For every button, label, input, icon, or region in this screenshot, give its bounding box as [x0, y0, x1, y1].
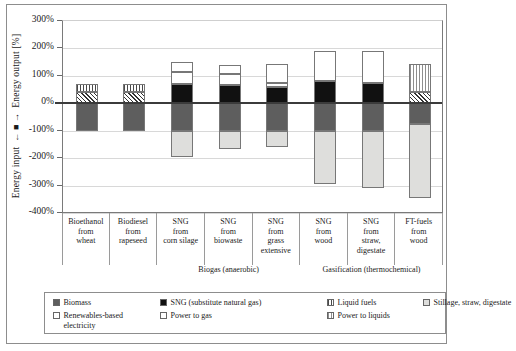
bar-segment-ptg	[266, 64, 288, 83]
y-tick-label: 200%	[8, 42, 54, 52]
bar-segment-stillage	[266, 131, 288, 147]
bar-segment-ptg	[219, 65, 241, 75]
category-label-line: from	[300, 227, 347, 237]
bar-segment-sng	[219, 85, 241, 103]
group-label-2: Gasification (thermochemical)	[300, 265, 443, 274]
bar-segment-renew	[362, 51, 384, 83]
category-axis-table: BioethanolfromwheatBiodieselfromrapeseed…	[62, 212, 443, 274]
bar-segment-sng	[314, 81, 336, 103]
bar-segment-biomass	[171, 103, 193, 130]
bar-segment-renew	[171, 72, 193, 84]
bar-segment-liquid	[123, 84, 145, 92]
y-axis-title: Energy input ← ■ → Energy output [%]	[11, 34, 21, 199]
bar-segment-biomass	[123, 103, 145, 130]
category-label-line: Biodiesel	[110, 217, 157, 227]
legend-label-liquid: Liquid fuels	[338, 298, 377, 308]
bar-6	[314, 21, 336, 212]
bar-segment-biomass	[219, 103, 241, 130]
bar-1	[76, 21, 98, 212]
category-label-8: FT-fuelsfromwood	[395, 213, 443, 265]
bar-8	[409, 21, 431, 212]
category-label-line: SNG	[205, 217, 252, 227]
bar-segment-renew	[219, 74, 241, 85]
group-label-1: Biogas (anaerobic)	[157, 265, 300, 274]
category-label-line: SNG	[253, 217, 300, 227]
category-label-4: SNGfrombiowaste	[205, 213, 253, 265]
bar-segment-stillage	[362, 131, 384, 189]
bar-3	[171, 21, 193, 212]
legend-swatch-renew-icon	[53, 312, 60, 319]
category-label-line: from	[63, 227, 109, 237]
bar-7	[362, 21, 384, 212]
legend-item-ptg: Power to gas	[160, 311, 320, 321]
y-tick-label: 100%	[8, 70, 54, 80]
category-label-5: SNGfromgrassextensive	[253, 213, 301, 265]
category-label-line: biowaste	[205, 236, 252, 246]
bar-5	[266, 21, 288, 212]
category-label-line: rapeseed	[110, 236, 157, 246]
category-label-line: SNG	[348, 217, 395, 227]
y-tick-label: -400%	[8, 207, 54, 217]
category-label-line: SNG	[157, 217, 204, 227]
category-label-line: straw,	[348, 236, 395, 246]
bar-segment-biomass	[76, 103, 98, 130]
bar-segment-liquid	[76, 84, 98, 92]
bar-segment-biomass	[314, 103, 336, 130]
bar-segment-ptl	[409, 64, 431, 93]
category-label-line: from	[348, 227, 395, 237]
y-tick-label: 300%	[8, 15, 54, 25]
category-label-line: from	[157, 227, 204, 237]
category-label-line: FT-fuels	[395, 217, 442, 227]
legend-item-biomass: Biomass	[53, 298, 159, 308]
legend-item-sng: SNG (substitute natural gas)	[160, 298, 325, 308]
category-label-line: wheat	[63, 236, 109, 246]
legend-label-renew: Renewables-based electricity	[64, 311, 154, 330]
y-tick-label: -300%	[8, 180, 54, 190]
bar-segment-biomass	[266, 103, 288, 130]
bar-2	[123, 21, 145, 212]
category-label-1: Bioethanolfromwheat	[62, 213, 110, 265]
category-label-line: extensive	[253, 246, 300, 256]
legend-label-sng: SNG (substitute natural gas)	[171, 298, 262, 308]
category-label-3: SNGfromcorn silage	[157, 213, 205, 265]
bar-segment-stillage	[171, 131, 193, 157]
category-label-6: SNGfromwood	[300, 213, 348, 265]
legend: BiomassSNG (substitute natural gas)Liqui…	[44, 292, 446, 334]
category-label-2: Biodieselfromrapeseed	[110, 213, 158, 265]
category-label-line: Bioethanol	[63, 217, 109, 227]
bar-segment-sng	[171, 84, 193, 103]
bar-segment-stillage	[219, 131, 241, 149]
zero-baseline	[55, 102, 442, 104]
category-label-line: wood	[300, 236, 347, 246]
legend-swatch-ptg-icon	[160, 312, 167, 319]
category-label-7: SNGfromstraw,digestate	[348, 213, 396, 265]
category-label-line: from	[253, 227, 300, 237]
legend-label-biomass: Biomass	[64, 298, 92, 308]
bar-segment-stillage	[314, 131, 336, 184]
category-label-line: from	[395, 227, 442, 237]
legend-item-renew: Renewables-based electricity	[53, 311, 157, 330]
legend-swatch-sng-icon	[160, 299, 167, 306]
category-label-line: from	[205, 227, 252, 237]
bar-segment-biomass	[409, 103, 431, 124]
legend-item-liquid: Liquid fuels	[327, 298, 423, 308]
category-label-line: from	[110, 227, 157, 237]
category-label-line: digestate	[348, 246, 395, 256]
legend-swatch-liquid-icon	[327, 299, 334, 306]
bar-4	[219, 21, 241, 212]
bar-series	[63, 21, 442, 212]
bar-segment-sng	[362, 83, 384, 104]
legend-swatch-ptl-icon	[327, 312, 334, 319]
category-label-line: wood	[395, 236, 442, 246]
legend-swatch-stillage-icon	[423, 299, 430, 306]
category-label-line: grass	[253, 236, 300, 246]
bar-segment-sng	[266, 87, 288, 103]
y-tick-label: -200%	[8, 152, 54, 162]
bar-segment-biomass	[362, 103, 384, 130]
legend-label-ptg: Power to gas	[171, 311, 212, 321]
category-label-line: SNG	[300, 217, 347, 227]
legend-item-stillage: Stillage, straw, digestate	[423, 298, 516, 308]
bar-segment-ptg	[171, 62, 193, 72]
legend-swatch-biomass-icon	[53, 299, 60, 306]
